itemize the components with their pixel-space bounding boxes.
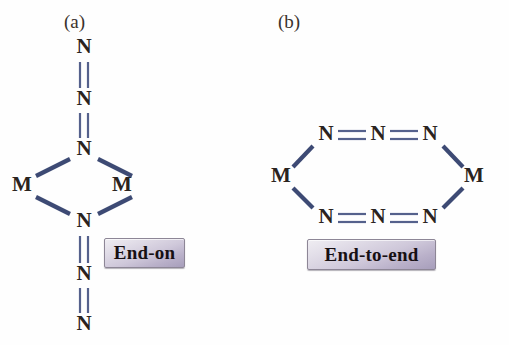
atom-b-n-top-1: N: [318, 121, 333, 145]
bond-a-mright-n4: [98, 197, 132, 214]
end-to-end-callout-text: End-to-end: [325, 244, 419, 266]
bond-a-n3-mleft: [36, 159, 70, 176]
end-on-callout-text: End-on: [114, 242, 175, 264]
bond-b-top-n2-n3: [390, 131, 418, 139]
atom-b-n-bottom-3: N: [422, 204, 437, 228]
bond-a-n5-n6: [80, 288, 88, 313]
atom-a-m-right: M: [112, 172, 132, 196]
figure-canvas: (a): [0, 0, 509, 345]
bond-b-mleft-nbottom: [293, 188, 313, 208]
panel-a-group: (a): [12, 11, 132, 334]
bond-b-mleft-ntop: [293, 146, 313, 167]
atom-b-n-bottom-1: N: [318, 204, 333, 228]
atom-b-m-right: M: [464, 163, 484, 187]
bond-b-bottom-n2-n3: [390, 214, 418, 222]
atom-b-m-left: M: [271, 163, 291, 187]
bond-b-ntop-mright: [443, 146, 463, 167]
panel-b-group: (b) N: [271, 11, 484, 227]
end-on-callout: End-on: [104, 238, 185, 268]
bond-b-top-n1-n2: [338, 131, 366, 139]
bond-a-n2-n3: [80, 113, 88, 138]
structure-diagram: (a): [0, 0, 509, 345]
atom-a-m-left: M: [12, 172, 32, 196]
bond-b-bottom-n1-n2: [338, 214, 366, 222]
atom-a-n2: N: [76, 86, 91, 110]
bond-a-n1-n2: [80, 62, 88, 88]
atom-a-n1: N: [76, 34, 91, 58]
atom-a-n6: N: [76, 311, 91, 335]
bond-b-nbottom-mright: [443, 188, 463, 208]
atom-b-n-bottom-2: N: [370, 204, 385, 228]
atom-b-n-top-2: N: [370, 121, 385, 145]
panel-a-label: (a): [64, 11, 85, 33]
atom-a-n5: N: [76, 261, 91, 285]
atom-a-n3: N: [76, 136, 91, 160]
atom-b-n-top-3: N: [422, 121, 437, 145]
end-to-end-callout: End-to-end: [307, 239, 436, 270]
atom-a-n4: N: [76, 208, 91, 232]
bond-a-mleft-n4: [36, 197, 70, 214]
panel-b-label: (b): [278, 11, 300, 33]
bond-a-n4-n5: [80, 236, 88, 263]
